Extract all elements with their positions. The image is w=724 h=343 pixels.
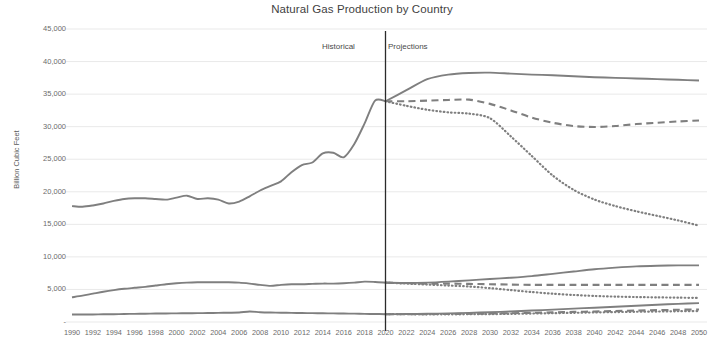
series-line xyxy=(72,311,386,314)
x-tick-label: 2016 xyxy=(336,328,352,337)
x-tick-label: 1996 xyxy=(127,328,143,337)
x-tick-label: 2030 xyxy=(482,328,498,337)
x-tick-label: 2028 xyxy=(461,328,477,337)
x-tick-label: 2038 xyxy=(565,328,581,337)
x-tick-label: 2018 xyxy=(356,328,372,337)
x-tick-label: 2006 xyxy=(231,328,247,337)
series-line xyxy=(72,99,386,206)
series-line xyxy=(386,265,700,283)
x-tick-label: 2036 xyxy=(545,328,561,337)
gridlines xyxy=(66,29,707,322)
x-tick-label: 2034 xyxy=(524,328,540,337)
x-tick-label: 2008 xyxy=(252,328,268,337)
x-tick-label: 2044 xyxy=(628,328,644,337)
historical-annotation: Historical xyxy=(322,42,355,51)
x-tick-label: 1990 xyxy=(64,328,80,337)
series-line xyxy=(386,101,700,225)
x-tick-label: 2032 xyxy=(503,328,519,337)
x-axis-tick-labels: 1990199219941996199820002002200420062008… xyxy=(0,328,724,342)
x-tick-label: 2048 xyxy=(670,328,686,337)
x-tick-label: 1994 xyxy=(106,328,122,337)
x-tick-label: 2026 xyxy=(440,328,456,337)
projections-annotation: Projections xyxy=(388,42,428,51)
x-tick-label: 2020 xyxy=(377,328,393,337)
x-tick-label: 1998 xyxy=(147,328,163,337)
series-line xyxy=(386,73,700,102)
x-tick-label: 2050 xyxy=(691,328,707,337)
x-tick-label: 2004 xyxy=(210,328,226,337)
x-tick-label: 2046 xyxy=(649,328,665,337)
x-tick-label: 2014 xyxy=(315,328,331,337)
x-tick-label: 2002 xyxy=(189,328,205,337)
x-tick-label: 1992 xyxy=(85,328,101,337)
x-tick-label: 2040 xyxy=(586,328,602,337)
x-tick-label: 2010 xyxy=(273,328,289,337)
x-tick-label: 2042 xyxy=(607,328,623,337)
x-tick-label: 2012 xyxy=(294,328,310,337)
chart-container: Natural Gas Production by Country Billio… xyxy=(0,0,724,343)
x-tick-label: 2022 xyxy=(398,328,414,337)
plot-area xyxy=(0,0,724,343)
x-tick-label: 2024 xyxy=(419,328,435,337)
x-tick-label: 2000 xyxy=(168,328,184,337)
series-line xyxy=(386,99,700,127)
